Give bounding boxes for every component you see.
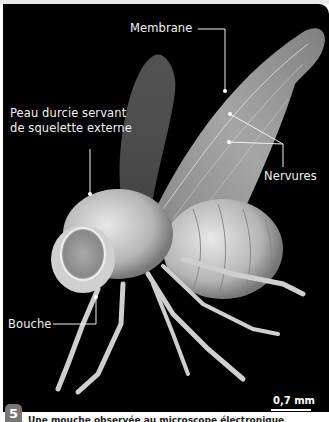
label-veins: Nervures <box>264 169 317 183</box>
scale-bar <box>271 409 311 411</box>
label-skeleton-line2: de squelette externe <box>10 121 132 135</box>
label-membrane: Membrane <box>130 21 192 35</box>
figure-caption: Une mouche observée au microscope électr… <box>28 413 284 422</box>
fly-illustration <box>3 4 329 412</box>
micrograph-panel <box>3 4 329 412</box>
scale-label: 0,7 mm <box>273 395 315 406</box>
compound-eye <box>61 228 105 280</box>
figure-number-badge: 5 <box>5 404 22 422</box>
label-mouth: Bouche <box>8 317 52 331</box>
label-skeleton-line1: Peau durcie servant <box>10 106 126 120</box>
